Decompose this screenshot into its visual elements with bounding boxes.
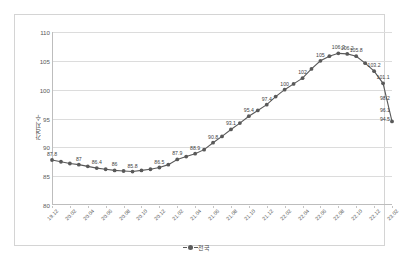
data-point-label: 101.1 <box>377 74 390 80</box>
data-point-marker <box>149 167 153 171</box>
x-tick-label: 20.02 <box>64 208 77 221</box>
x-tick-mark <box>177 206 178 208</box>
data-point-marker <box>327 54 331 58</box>
data-point-label: 87.8 <box>47 151 57 157</box>
data-point-marker <box>184 155 188 159</box>
x-tick-label: 22.12 <box>368 208 381 221</box>
x-tick-mark <box>374 206 375 208</box>
y-axis-tick-labels: 11010510095908580 <box>37 32 50 205</box>
data-point-marker <box>283 88 287 92</box>
data-point-label: 102 <box>298 69 307 75</box>
data-point-marker <box>265 103 269 107</box>
data-point-marker <box>354 54 358 58</box>
x-tick-label: 19.12 <box>46 208 59 221</box>
data-point-marker <box>238 121 242 125</box>
data-point-marker <box>202 148 206 152</box>
x-tick-label: 22.04 <box>296 208 309 221</box>
x-axis-tick-labels: 19.1220.0220.0420.0620.0820.1020.1221.02… <box>52 206 392 240</box>
legend: 전국 <box>15 243 384 252</box>
data-point-label: 105 <box>316 52 325 58</box>
data-point-marker <box>113 169 117 173</box>
x-tick-label: 22.10 <box>350 208 363 221</box>
data-point-marker <box>104 167 108 171</box>
x-tick-mark <box>285 206 286 208</box>
data-point-label: 95.4 <box>244 107 254 113</box>
x-tick-label: 23.02 <box>386 208 399 221</box>
data-point-marker <box>363 61 367 65</box>
data-point-label: 87 <box>76 156 82 162</box>
chart-container: 가격지수 11010510095908580 87.88786.48685.88… <box>0 0 399 260</box>
x-tick-label: 20.10 <box>135 208 148 221</box>
data-point-marker <box>140 169 144 173</box>
x-tick-mark <box>231 206 232 208</box>
data-point-label: 97.4 <box>262 96 272 102</box>
x-tick-mark <box>159 206 160 208</box>
y-tick-label: 100 <box>40 86 50 93</box>
data-point-marker <box>50 158 54 162</box>
data-point-label: 85.8 <box>127 163 137 169</box>
x-tick-label: 21.08 <box>225 208 238 221</box>
data-point-marker <box>390 119 394 123</box>
data-point-label: 86 <box>112 161 118 167</box>
data-point-label: 96.1 <box>380 107 390 113</box>
x-tick-mark <box>195 206 196 208</box>
data-point-marker <box>77 163 81 167</box>
data-point-marker <box>229 128 233 132</box>
x-tick-mark <box>88 206 89 208</box>
x-tick-mark <box>141 206 142 208</box>
data-point-marker <box>220 134 224 138</box>
x-tick-label: 22.08 <box>332 208 345 221</box>
x-tick-label: 21.06 <box>207 208 220 221</box>
data-point-label: 93.1 <box>226 120 236 126</box>
data-point-label: 98.2 <box>380 95 390 101</box>
x-tick-mark <box>124 206 125 208</box>
data-point-marker <box>166 163 170 167</box>
x-tick-label: 21.02 <box>171 208 184 221</box>
data-point-marker <box>381 81 385 85</box>
x-tick-mark <box>338 206 339 208</box>
x-tick-mark <box>70 206 71 208</box>
data-point-marker <box>310 67 314 71</box>
x-tick-label: 20.06 <box>99 208 112 221</box>
x-tick-mark <box>213 206 214 208</box>
x-tick-mark <box>356 206 357 208</box>
series-line-nationwide <box>52 32 392 205</box>
data-point-label: 100 <box>280 81 289 87</box>
x-tick-label: 21.04 <box>189 208 202 221</box>
data-point-marker <box>193 152 197 156</box>
x-tick-mark <box>52 206 53 208</box>
data-point-label: 90.8 <box>208 134 218 140</box>
x-tick-label: 20.04 <box>82 208 95 221</box>
data-point-marker <box>157 166 161 170</box>
data-point-label: 103.2 <box>368 62 381 68</box>
data-point-marker <box>336 51 340 55</box>
data-point-label: 105.8 <box>350 47 363 53</box>
x-tick-mark <box>303 206 304 208</box>
data-point-marker <box>292 82 296 86</box>
data-point-marker <box>247 114 251 118</box>
data-point-marker <box>256 109 260 113</box>
data-point-marker <box>95 166 99 170</box>
legend-marker-icon <box>188 245 193 250</box>
x-tick-label: 20.08 <box>117 208 130 221</box>
x-tick-mark <box>267 206 268 208</box>
data-point-marker <box>319 59 323 63</box>
data-point-marker <box>274 95 278 99</box>
data-point-label: 86.4 <box>92 159 102 165</box>
data-point-marker <box>122 169 126 173</box>
data-point-label: 88.9 <box>190 145 200 151</box>
data-point-marker <box>175 158 179 162</box>
data-point-marker <box>345 52 349 56</box>
data-point-marker <box>372 69 376 73</box>
x-tick-label: 20.12 <box>153 208 166 221</box>
x-tick-mark <box>249 206 250 208</box>
y-tick-label: 95 <box>43 115 50 122</box>
chart-frame: 가격지수 11010510095908580 87.88786.48685.88… <box>14 14 385 246</box>
y-tick-label: 90 <box>43 144 50 151</box>
data-point-label: 94.5 <box>380 116 390 122</box>
y-tick-label: 80 <box>43 202 50 209</box>
x-tick-label: 22.02 <box>278 208 291 221</box>
x-tick-label: 21.12 <box>261 208 274 221</box>
y-tick-label: 105 <box>40 57 50 64</box>
x-tick-label: 21.10 <box>243 208 256 221</box>
